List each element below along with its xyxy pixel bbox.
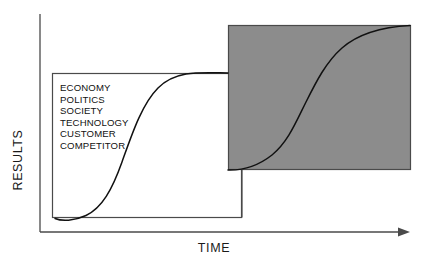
x-axis-label: TIME: [198, 241, 230, 255]
factor-item-customer: CUSTOMER: [60, 128, 116, 139]
highlight-panel: [229, 26, 411, 170]
factor-item-competitor: COMPETITOR: [60, 140, 125, 151]
diagram-canvas: RESULTS TIME ECONOMY POLITICS SOCIETY TE…: [0, 0, 429, 259]
factor-item-politics: POLITICS: [60, 94, 105, 105]
factor-item-technology: TECHNOLOGY: [60, 117, 129, 128]
factor-item-society: SOCIETY: [60, 105, 104, 116]
x-axis-arrowhead: [398, 228, 410, 237]
factor-item-economy: ECONOMY: [60, 82, 111, 93]
diagram-svg: RESULTS TIME ECONOMY POLITICS SOCIETY TE…: [0, 0, 429, 259]
y-axis-label: RESULTS: [11, 130, 25, 191]
